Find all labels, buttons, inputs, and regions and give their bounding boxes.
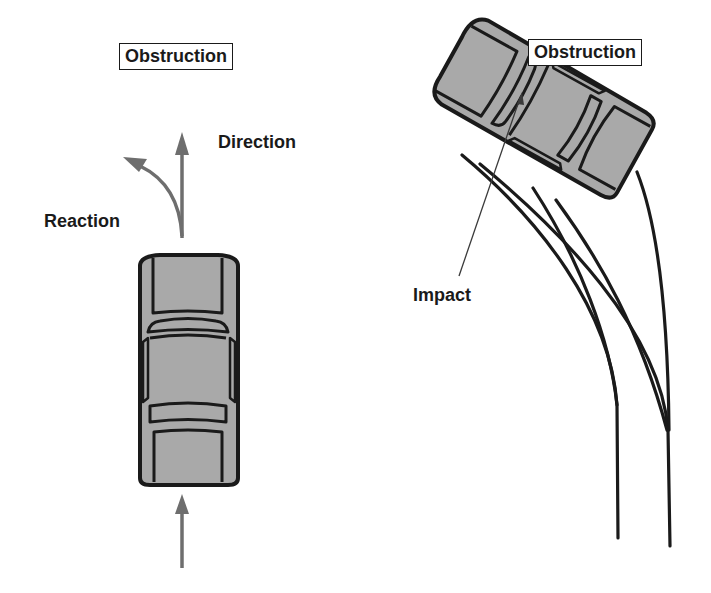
impact-label: Impact [413, 286, 471, 304]
reaction-arrow [123, 157, 182, 236]
obstruction-label-right: Obstruction [528, 39, 642, 66]
direction-label: Direction [218, 133, 296, 151]
car-left [140, 255, 238, 485]
skid-marks [462, 155, 670, 546]
diagram-canvas [0, 0, 711, 593]
obstruction-label-left: Obstruction [119, 43, 233, 70]
reaction-label: Reaction [44, 212, 120, 230]
approach-arrow [175, 494, 189, 568]
